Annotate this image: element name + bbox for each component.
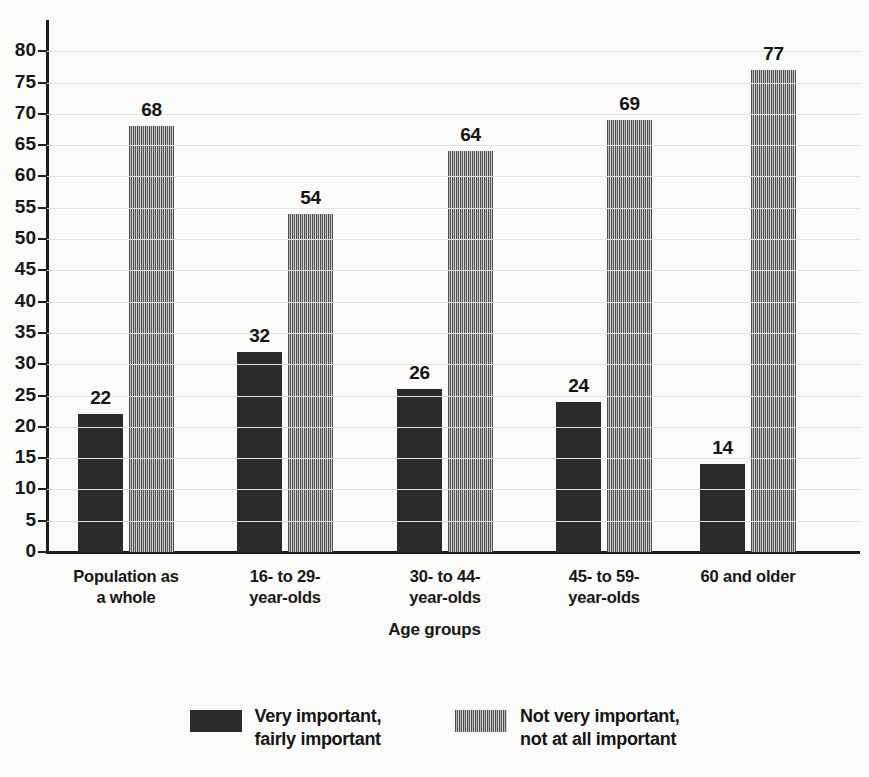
legend-label-very-important: Very important, fairly important [255, 705, 382, 751]
x-axis-category-label: 60 and older [658, 566, 838, 587]
bar-value-label: 69 [607, 93, 652, 115]
bar-value-label: 64 [448, 124, 493, 146]
bar-value-label: 14 [700, 437, 745, 459]
chart-legend: Very important, fairly important Not ver… [0, 705, 869, 751]
bar-value-label: 77 [751, 43, 796, 65]
gridline [47, 302, 860, 303]
legend-item-not-very-important[interactable]: Not very important, not at all important [455, 705, 679, 751]
x-axis-category-label: 30- to 44-year-olds [355, 566, 535, 608]
bar-value-label: 54 [288, 187, 333, 209]
gridline [47, 270, 860, 271]
gridline [47, 489, 860, 490]
solid-swatch-icon [190, 710, 242, 732]
bar-3-series-1 [607, 120, 652, 552]
category-label-line: year-olds [514, 587, 694, 608]
bar-value-label: 26 [397, 362, 442, 384]
y-axis-tick-label: 0 [0, 540, 36, 562]
bar-1-series-1 [288, 214, 333, 552]
gridline [47, 427, 860, 428]
y-axis-tick-label: 25 [0, 384, 36, 406]
bar-value-label: 68 [129, 99, 174, 121]
legend-label-line-2: not at all important [520, 728, 679, 751]
y-axis-tick-label: 45 [0, 258, 36, 280]
legend-label-line-1: Very important, [255, 705, 382, 728]
bar-0-series-1 [129, 126, 174, 552]
bar-4-series-1 [751, 70, 796, 552]
gridline [47, 364, 860, 365]
x-axis-category-label: Population asa whole [36, 566, 216, 608]
gridline [47, 208, 860, 209]
y-axis-tick-label: 40 [0, 290, 36, 312]
bar-2-series-1 [448, 151, 493, 552]
x-axis-category-label: 16- to 29-year-olds [195, 566, 375, 608]
legend-item-very-important[interactable]: Very important, fairly important [190, 705, 382, 751]
bar-value-label: 22 [78, 387, 123, 409]
bar-value-label: 32 [237, 325, 282, 347]
bar-3-series-0 [556, 402, 601, 552]
bar-2-series-0 [397, 389, 442, 552]
legend-label-not-very-important: Not very important, not at all important [520, 705, 679, 751]
x-axis-title: Age groups [0, 620, 869, 640]
y-axis-tick-label: 75 [0, 71, 36, 93]
y-axis-tick-label: 70 [0, 102, 36, 124]
bar-0-series-0 [78, 414, 123, 552]
gridline [47, 333, 860, 334]
bar-1-series-0 [237, 352, 282, 552]
legend-label-line-1: Not very important, [520, 705, 679, 728]
y-axis-tick-label: 5 [0, 509, 36, 531]
bar-4-series-0 [700, 464, 745, 552]
gridline [47, 83, 860, 84]
category-label-line: 30- to 44- [355, 566, 535, 587]
y-axis-tick-label: 10 [0, 477, 36, 499]
category-label-line: 60 and older [658, 566, 838, 587]
category-label-line: year-olds [195, 587, 375, 608]
gridline [47, 176, 860, 177]
category-label-line: 16- to 29- [195, 566, 375, 587]
striped-swatch-icon [455, 710, 507, 732]
y-axis-tick-label: 15 [0, 446, 36, 468]
gridline [47, 239, 860, 240]
bar-chart-figure: 05101520253035404550556065707580 2268325… [0, 0, 869, 777]
category-label-line: Population as [36, 566, 216, 587]
category-label-line: year-olds [355, 587, 535, 608]
y-axis-tick-label: 30 [0, 352, 36, 374]
y-axis-tick-label: 65 [0, 133, 36, 155]
y-axis-tick-label: 50 [0, 227, 36, 249]
y-axis-tick-label: 60 [0, 164, 36, 186]
y-axis-tick-label: 55 [0, 196, 36, 218]
gridline [47, 51, 860, 52]
gridline [47, 521, 860, 522]
y-axis-tick-label: 20 [0, 415, 36, 437]
y-axis-tick-label: 80 [0, 39, 36, 61]
gridline [47, 396, 860, 397]
bar-value-label: 24 [556, 375, 601, 397]
category-label-line: a whole [36, 587, 216, 608]
y-axis-tick-label: 35 [0, 321, 36, 343]
legend-label-line-2: fairly important [255, 728, 382, 751]
